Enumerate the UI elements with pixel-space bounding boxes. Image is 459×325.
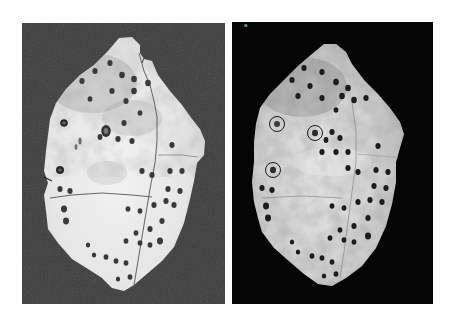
right-photo-panel: a [232,22,433,304]
left-bone-photo [22,23,225,304]
right-bone-photo [232,22,433,304]
panel-label: a [244,22,247,28]
left-photo-panel [22,23,225,304]
